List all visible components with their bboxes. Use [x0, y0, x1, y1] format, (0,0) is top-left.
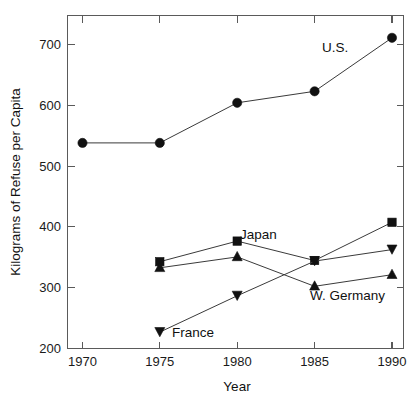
point-us-1990	[387, 33, 396, 42]
y-tick-label-700: 700	[39, 37, 61, 52]
x-tick-label-1985: 1985	[300, 354, 329, 369]
y-tick-label-200: 200	[39, 341, 61, 356]
point-us-1975	[155, 138, 164, 147]
y-tick-label-300: 300	[39, 280, 61, 295]
point-us-1985	[310, 87, 319, 96]
point-us-1970	[78, 138, 87, 147]
series-label-us: U.S.	[322, 40, 348, 55]
y-axis-title: Kilograms of Refuse per Capita	[8, 88, 23, 276]
x-tick-label-1980: 1980	[223, 354, 252, 369]
series-label-w-germany: W. Germany	[310, 288, 385, 303]
point-japan-1990	[388, 218, 396, 226]
chart-canvas: 200 300 400 500 600 700 1970 1975 1980 1…	[0, 0, 419, 404]
x-tick-label-1975: 1975	[145, 354, 174, 369]
x-tick-label-1990: 1990	[378, 354, 407, 369]
y-tick-label-400: 400	[39, 219, 61, 234]
x-tick-label-1970: 1970	[68, 354, 97, 369]
point-us-1980	[233, 98, 242, 107]
series-label-france: France	[172, 325, 214, 340]
chart-background	[0, 0, 419, 404]
refuse-per-capita-line-chart: 200 300 400 500 600 700 1970 1975 1980 1…	[0, 0, 419, 404]
series-label-japan: Japan	[240, 227, 277, 242]
y-tick-label-500: 500	[39, 159, 61, 174]
y-tick-label-600: 600	[39, 98, 61, 113]
x-axis-title: Year	[223, 379, 251, 394]
